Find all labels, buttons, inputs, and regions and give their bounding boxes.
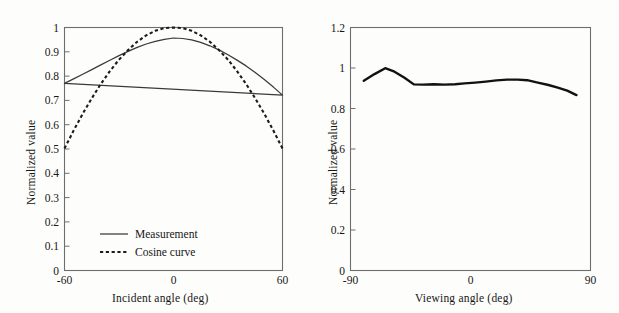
x-tick-label: -60 <box>57 274 73 286</box>
y-tick-label: 1 <box>339 62 345 74</box>
y-tick-label: 0.1 <box>45 240 60 252</box>
y-tick-label: 0.3 <box>45 192 60 204</box>
y-tick-label: 0.9 <box>45 46 60 58</box>
y-tick-label: 1.2 <box>331 22 346 34</box>
series-measurement-left <box>65 38 283 95</box>
y-tick-label: 0.4 <box>45 167 60 179</box>
x-tick-label: 90 <box>585 274 597 286</box>
x-tick-label: 0 <box>468 274 474 286</box>
left-y-axis-title: Normalized value <box>25 120 37 205</box>
two-panel-figure: 1 0.9 0.8 0.7 0.6 0.5 0.4 0.3 0.2 0.1 0 … <box>0 0 619 313</box>
right-y-axis-title: Normalized value <box>327 120 339 205</box>
y-tick-label: 0.6 <box>45 119 60 131</box>
x-tick-label: 60 <box>277 274 289 286</box>
series-cosine-left <box>65 28 283 149</box>
y-tick-label: 1 <box>53 22 59 34</box>
right-x-tick-labels: -90 0 90 <box>343 274 597 286</box>
legend-label-cosine-curve: Cosine curve <box>135 246 195 258</box>
y-tick-label: 0.8 <box>45 70 60 82</box>
y-tick-label: 0.2 <box>45 216 60 228</box>
left-legend: Measurement Cosine curve <box>100 228 198 258</box>
y-tick-label: 0.5 <box>45 143 60 155</box>
right-plot-svg: 1.2 1 0.8 0.6 0.4 0.2 0 -90 0 90 <box>310 0 619 313</box>
right-plot-frame <box>351 28 591 271</box>
y-tick-label: 0.2 <box>331 224 346 236</box>
right-x-axis-title: Viewing angle (deg) <box>415 292 513 304</box>
left-plot-svg: 1 0.9 0.8 0.7 0.6 0.5 0.4 0.3 0.2 0.1 0 … <box>0 0 310 313</box>
right-y-ticks <box>351 28 356 271</box>
chart-panel-left: 1 0.9 0.8 0.7 0.6 0.5 0.4 0.3 0.2 0.1 0 … <box>0 0 310 313</box>
left-y-ticks <box>65 28 70 271</box>
x-tick-label: 0 <box>171 274 177 286</box>
left-x-tick-labels: -60 0 60 <box>57 274 289 286</box>
y-tick-label: 0.7 <box>45 94 60 106</box>
legend-label-measurement: Measurement <box>135 228 198 240</box>
series-measurement-right <box>364 68 577 95</box>
y-tick-label: 0.8 <box>331 103 346 115</box>
x-tick-label: -90 <box>343 274 359 286</box>
chart-panel-right: 1.2 1 0.8 0.6 0.4 0.2 0 -90 0 90 Normali… <box>310 0 619 313</box>
left-y-tick-labels: 1 0.9 0.8 0.7 0.6 0.5 0.4 0.3 0.2 0.1 0 <box>45 22 60 277</box>
left-x-axis-title: Incident angle (deg) <box>112 292 209 304</box>
